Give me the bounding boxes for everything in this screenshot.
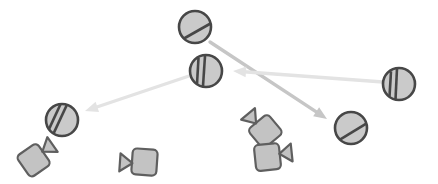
camera-bottom-left-icon xyxy=(16,136,61,179)
ball-top-icon xyxy=(179,11,211,43)
arrow-middle-to-left xyxy=(85,75,192,112)
diagram-canvas xyxy=(0,0,438,184)
ball-right-icon xyxy=(383,68,415,100)
scene-svg xyxy=(0,0,438,184)
camera-mid-upper-icon xyxy=(240,104,284,149)
arrow-right-to-middle xyxy=(233,67,383,82)
camera-bottom-center-icon xyxy=(119,147,158,176)
ball-middle-icon xyxy=(190,55,222,87)
camera-mid-lower-icon xyxy=(254,142,294,172)
ball-bottom-right-icon xyxy=(335,112,367,144)
ball-bottom-left-icon xyxy=(46,104,78,136)
arrow-top-to-bottom-right xyxy=(210,42,327,119)
